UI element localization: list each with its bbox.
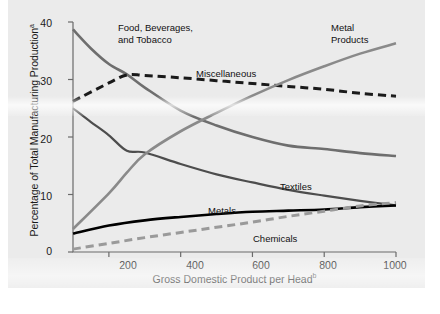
series-label-metal-products: Metal Products <box>331 22 369 45</box>
figure-container: Percentage of Total Manufacturing Produc… <box>0 0 440 314</box>
series-label-chemicals: Chemicals <box>253 233 297 245</box>
series-label-miscellaneous: Miscellaneous <box>196 68 256 80</box>
series-line-textiles <box>73 108 396 205</box>
cropped-caption-artifact <box>10 300 430 310</box>
plot-area <box>0 0 440 314</box>
series-label-metals: Metals <box>208 205 236 217</box>
series-line-food-beverages-and-tobacco <box>73 29 396 156</box>
series-label-food-beverages-tobacco: Food, Beverages, and Tobacco <box>118 22 193 45</box>
series-label-textiles: Textiles <box>280 181 312 193</box>
